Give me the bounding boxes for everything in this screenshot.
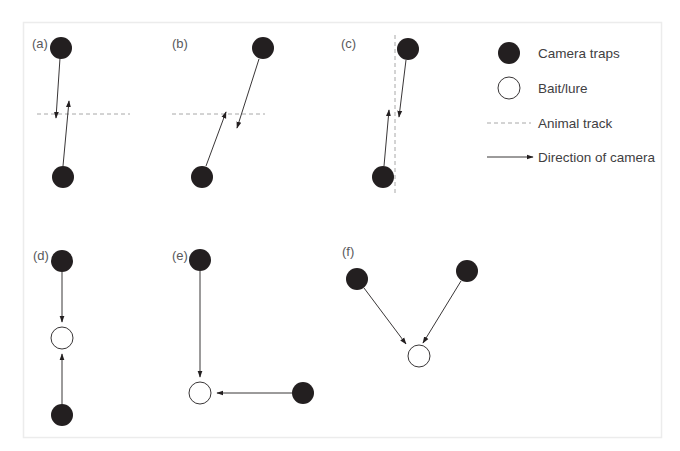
- camera-trap-icon: [189, 249, 211, 271]
- camera-trap-icon: [50, 37, 72, 59]
- camera-trap-icon: [456, 260, 478, 282]
- panel-label-b: (b): [172, 36, 188, 51]
- panel-label-a: (a): [32, 36, 48, 51]
- bait-icon: [189, 382, 211, 404]
- legend-label-bait: Bait/lure: [538, 81, 588, 96]
- legend-bait-icon: [498, 77, 520, 99]
- legend-label-camera-traps: Camera traps: [538, 46, 620, 61]
- camera-trap-placement-diagram: (a) (b) (c) Camera traps Bait/lure Anima…: [0, 0, 680, 451]
- panel-label-c: (c): [341, 36, 356, 51]
- camera-trap-icon: [372, 166, 394, 188]
- camera-trap-icon: [51, 404, 73, 426]
- bait-icon: [51, 327, 73, 349]
- legend-camera-trap-icon: [498, 42, 520, 64]
- camera-trap-icon: [292, 382, 314, 404]
- legend-label-direction: Direction of camera: [538, 150, 656, 165]
- bait-icon: [408, 345, 430, 367]
- camera-trap-icon: [52, 166, 74, 188]
- panel-label-f: (f): [342, 244, 354, 259]
- camera-trap-icon: [51, 250, 73, 272]
- panel-label-d: (d): [33, 248, 49, 263]
- camera-trap-icon: [252, 37, 274, 59]
- camera-trap-icon: [191, 166, 213, 188]
- panel-label-e: (e): [172, 248, 188, 263]
- camera-trap-icon: [397, 38, 419, 60]
- legend-label-track: Animal track: [538, 116, 613, 131]
- camera-trap-icon: [346, 268, 368, 290]
